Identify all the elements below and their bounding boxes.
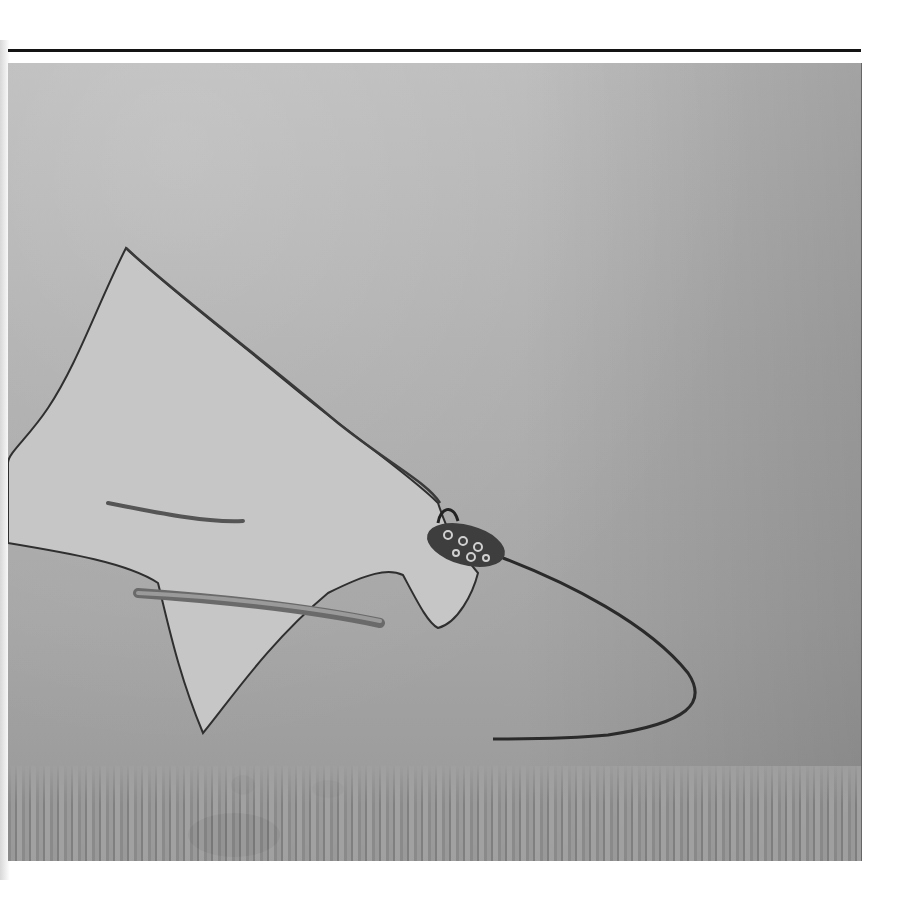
ray-wing	[8, 248, 478, 733]
top-rule-divider	[8, 49, 861, 52]
seabed-coral	[8, 766, 861, 861]
eagle-ray-photo	[8, 63, 862, 861]
eagle-ray-illustration	[8, 63, 861, 861]
ray-tail	[493, 558, 695, 739]
